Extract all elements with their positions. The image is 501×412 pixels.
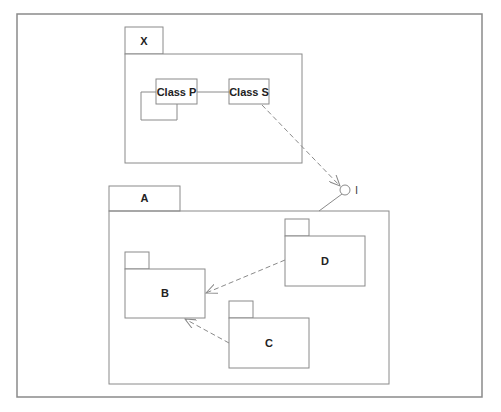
class-p[interactable]: Class P xyxy=(156,79,197,104)
dependency-d-to-b xyxy=(206,260,285,293)
interface-i-label: I xyxy=(355,184,358,196)
package-c-label: C xyxy=(265,337,273,349)
package-c-tab xyxy=(229,301,253,318)
package-b[interactable]: B xyxy=(125,252,205,318)
interface-i[interactable]: I xyxy=(319,184,358,211)
package-x-label: X xyxy=(140,35,148,47)
class-s-label: Class S xyxy=(229,86,269,98)
package-c[interactable]: C xyxy=(229,301,309,368)
package-a-label: A xyxy=(141,192,149,204)
interface-i-stem xyxy=(319,194,342,211)
package-d-label: D xyxy=(321,255,329,267)
package-x-body xyxy=(125,54,302,163)
package-b-label: B xyxy=(161,287,169,299)
interface-i-circle xyxy=(340,185,350,195)
package-d-tab xyxy=(285,219,309,236)
package-x[interactable]: X xyxy=(125,27,302,163)
package-d[interactable]: D xyxy=(285,219,365,286)
dependency-c-to-b xyxy=(185,319,229,343)
package-b-tab xyxy=(125,252,149,269)
class-p-label: Class P xyxy=(157,86,197,98)
class-s[interactable]: Class S xyxy=(229,79,269,104)
diagram-canvas: X Class P Class S I A D B xyxy=(0,0,501,412)
